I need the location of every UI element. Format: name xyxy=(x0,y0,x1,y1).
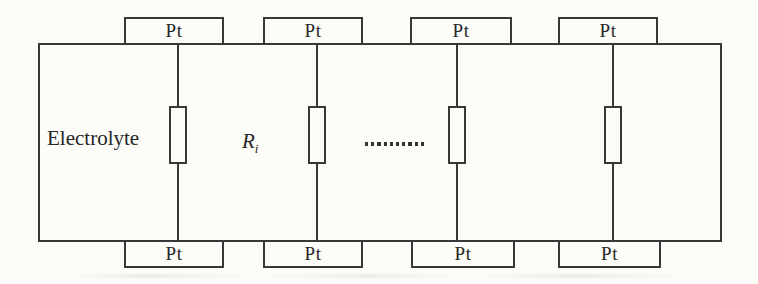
electrolyte-label: Electrolyte xyxy=(47,126,139,151)
pt-electrode-bottom-2: Pt xyxy=(263,240,363,268)
pt-electrode-bottom-1: Pt xyxy=(124,240,224,268)
pt-electrode-label: Pt xyxy=(166,20,183,42)
pt-electrode-label: Pt xyxy=(305,20,322,42)
pt-electrode-bottom-4: Pt xyxy=(558,240,661,268)
pt-electrode-label: Pt xyxy=(455,243,472,265)
pt-electrode-bottom-3: Pt xyxy=(411,240,515,268)
resistance-symbol: R xyxy=(242,129,255,153)
scan-artifact xyxy=(70,274,690,278)
pt-electrode-label: Pt xyxy=(166,243,183,265)
pt-electrode-label: Pt xyxy=(600,20,617,42)
resistor-symbol-4 xyxy=(604,106,622,164)
pt-electrode-label: Pt xyxy=(601,243,618,265)
pt-electrode-top-3: Pt xyxy=(410,17,512,45)
resistor-symbol-1 xyxy=(169,106,187,164)
resistor-symbol-2 xyxy=(308,106,326,164)
pt-electrode-top-2: Pt xyxy=(263,17,363,45)
electrolyte-cell-figure: Pt Pt Pt Pt Pt Pt Pt Pt Electrolyte Ri xyxy=(0,0,758,284)
internal-resistance-label: Ri xyxy=(242,129,258,154)
resistance-subscript: i xyxy=(255,141,259,156)
resistor-symbol-3 xyxy=(448,106,466,164)
pt-electrode-top-4: Pt xyxy=(558,17,658,45)
pt-electrode-label: Pt xyxy=(305,243,322,265)
pt-electrode-top-1: Pt xyxy=(124,17,224,45)
pt-electrode-label: Pt xyxy=(453,20,470,42)
ellipsis-dots-icon xyxy=(365,142,424,146)
